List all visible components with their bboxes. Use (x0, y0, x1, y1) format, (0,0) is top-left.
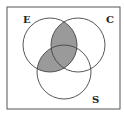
label-e: E (23, 14, 31, 25)
label-c: C (106, 14, 114, 25)
label-s: S (92, 94, 99, 105)
venn-diagram: E C S (0, 0, 124, 113)
